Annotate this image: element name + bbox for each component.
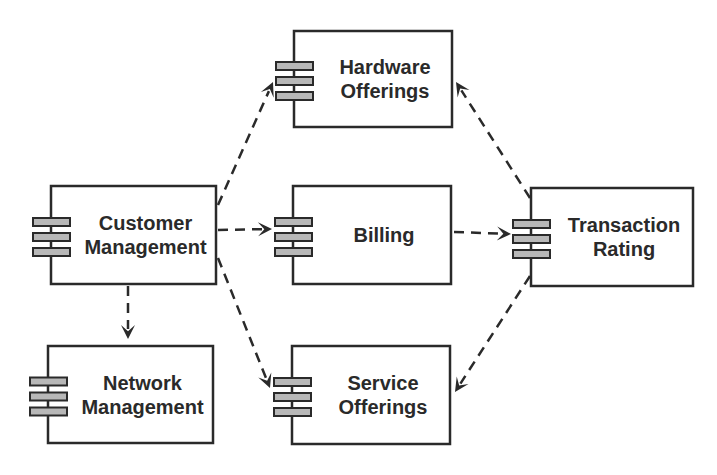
edge-customer-to-hardware [218,82,274,205]
component-label-line: Service [347,372,418,394]
component-label-line: Offerings [341,80,430,102]
edge-customer-to-service [218,258,271,388]
component-icon [275,218,312,256]
component-icon-bar [513,220,550,228]
edge-billing-to-transaction [454,227,511,241]
component-icon-bar [275,233,312,241]
component-icon-bar [276,92,313,100]
component-diagram: HardwareOfferingsCustomerManagementBilli… [0,0,717,475]
components-layer: HardwareOfferingsCustomerManagementBilli… [30,31,693,444]
component-icon-bar [276,62,313,70]
component-service[interactable]: ServiceOfferings [274,346,450,444]
component-icon-bar [30,378,67,386]
component-box [292,346,450,444]
component-icon-bar [513,250,550,258]
component-label-line: Transaction [568,214,680,236]
edge-customer-to-billing [218,222,272,236]
component-icon-bar [30,408,67,416]
component-box [294,31,452,127]
component-icon [276,62,313,100]
component-icon-bar [275,218,312,226]
edge-transaction-to-hardware [456,82,530,198]
component-customer[interactable]: CustomerManagement [33,186,216,284]
component-icon-bar [275,248,312,256]
component-icon-bar [33,218,70,226]
component-icon-bar [513,235,550,243]
component-label-line: Management [81,396,204,418]
component-label-line: Offerings [339,396,428,418]
arrowhead-icon [455,376,468,392]
component-label-line: Billing [353,224,414,246]
component-label-line: Rating [593,238,655,260]
component-label-line: Management [84,236,207,258]
component-icon [33,218,70,256]
component-icon-bar [276,77,313,85]
component-network[interactable]: NetworkManagement [30,346,213,443]
arrowhead-icon [456,82,469,98]
dependency-line [460,276,530,384]
component-icon-bar [274,408,311,416]
component-icon [274,378,311,416]
component-label-line: Network [103,372,183,394]
component-icon-bar [30,393,67,401]
component-billing[interactable]: Billing [275,186,451,284]
component-icon [30,378,67,416]
component-icon-bar [33,233,70,241]
component-icon-bar [274,378,311,386]
dependency-line [218,91,269,205]
dependency-line [218,229,262,230]
dependency-line [461,90,530,198]
component-transaction[interactable]: TransactionRating [513,188,693,286]
component-icon-bar [274,393,311,401]
dependency-line [218,258,266,379]
component-hardware[interactable]: HardwareOfferings [276,31,452,127]
component-box [531,188,693,286]
dependency-line [454,232,501,234]
edge-customer-to-network [121,286,135,339]
component-box [48,346,213,443]
component-label-line: Hardware [339,56,430,78]
edge-transaction-to-service [455,276,530,392]
component-box [51,186,216,284]
component-icon-bar [33,248,70,256]
component-label: Billing [353,224,414,246]
component-icon [513,220,550,258]
component-label-line: Customer [99,212,193,234]
arrowhead-icon [497,227,511,241]
